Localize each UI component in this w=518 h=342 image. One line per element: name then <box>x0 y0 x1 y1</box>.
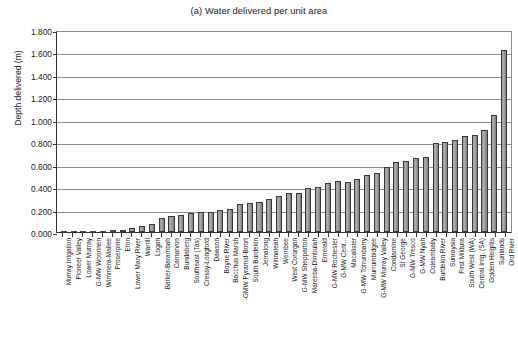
x-label-slot: Pioneer Valley <box>68 238 78 342</box>
x-label-slot: Lower Murray <box>78 238 88 342</box>
bar <box>364 175 370 232</box>
bar-slot <box>98 32 108 232</box>
x-tick-slot <box>363 233 373 237</box>
x-tick-slot <box>274 233 284 237</box>
bar-slot <box>127 32 137 232</box>
x-tick-slot <box>392 233 402 237</box>
x-label-slot: Jemalong <box>255 238 265 342</box>
x-label-slot: G-MW Rochester <box>323 238 333 342</box>
bar <box>354 179 360 232</box>
x-label-slot: Warrill <box>137 238 147 342</box>
bar-slot <box>313 32 323 232</box>
bar-slot <box>323 32 333 232</box>
bar-slot <box>59 32 69 232</box>
bar <box>198 212 204 232</box>
x-tick-slot <box>461 233 471 237</box>
bar-slot <box>108 32 118 232</box>
x-tick-slot <box>235 233 245 237</box>
bar <box>61 231 67 232</box>
x-tick-slot <box>500 233 510 237</box>
x-label-slot: G-MW Nyah <box>412 238 422 342</box>
x-label-slot: Ord River <box>500 238 510 342</box>
bar-slot <box>343 32 353 232</box>
x-label-slot: Golden Heights <box>481 238 491 342</box>
y-tick-label: 1.600 <box>31 49 52 59</box>
x-label-slot: Logan <box>146 238 156 342</box>
x-label-slot: G-MW Cent... <box>333 238 343 342</box>
y-tick-label: 1.200 <box>31 94 52 104</box>
bar-slot <box>79 32 89 232</box>
bar <box>384 167 390 232</box>
bar <box>129 228 135 232</box>
x-tick-slot <box>422 233 432 237</box>
x-tick-slot <box>451 233 461 237</box>
x-tick-slot <box>333 233 343 237</box>
bar-slot <box>382 32 392 232</box>
x-label-slot: Cressy-Longford <box>196 238 206 342</box>
x-tick-slot <box>264 233 274 237</box>
x-tick-slot <box>294 233 304 237</box>
x-tick-mark <box>446 233 447 237</box>
x-tick-mark <box>220 233 221 237</box>
bar <box>256 202 262 232</box>
x-tick-mark <box>249 233 250 237</box>
x-tick-slot <box>323 233 333 237</box>
bar <box>501 50 507 232</box>
chart-title: (a) Water delivered per unit area <box>0 6 518 16</box>
y-tick-label: 0.400 <box>31 184 52 194</box>
bar-slot <box>137 32 147 232</box>
bar <box>266 199 272 232</box>
bar-slot <box>470 32 480 232</box>
x-tick-label: Ord River <box>509 238 516 266</box>
x-tick-mark <box>190 233 191 237</box>
bar <box>100 231 106 232</box>
bar <box>110 230 116 232</box>
x-label-slot: Condamine <box>382 238 392 342</box>
x-tick-slot <box>137 233 147 237</box>
x-label-slot: Dawson <box>205 238 215 342</box>
x-tick-mark <box>269 233 270 237</box>
x-label-slot: Winnaleah <box>264 238 274 342</box>
x-tick-mark <box>397 233 398 237</box>
x-label-slot: South Burdekin <box>245 238 255 342</box>
x-tick-slot <box>68 233 78 237</box>
bar <box>296 193 302 233</box>
x-tick-slot <box>481 233 491 237</box>
bar <box>120 230 126 232</box>
bar-slot <box>460 32 470 232</box>
x-tick-mark <box>62 233 63 237</box>
x-tick-mark <box>141 233 142 237</box>
bar <box>423 157 429 232</box>
x-tick-slot <box>58 233 68 237</box>
x-tick-mark <box>210 233 211 237</box>
x-label-slot: Macalister <box>343 238 353 342</box>
bar <box>433 143 439 232</box>
y-tick-label: 1.800 <box>31 27 52 37</box>
x-label-slot: Bacchus Marsh <box>225 238 235 342</box>
x-tick-mark <box>112 233 113 237</box>
bar <box>90 231 96 232</box>
x-tick-mark <box>131 233 132 237</box>
x-tick-mark <box>367 233 368 237</box>
bar-slot <box>372 32 382 232</box>
bar <box>442 142 448 232</box>
bar-slot <box>225 32 235 232</box>
x-tick-mark <box>436 233 437 237</box>
bar <box>217 210 223 232</box>
x-tick-mark <box>298 233 299 237</box>
x-axis-ticks <box>56 233 512 237</box>
bar-slot <box>264 32 274 232</box>
bar <box>335 181 341 232</box>
bar <box>80 231 86 232</box>
x-tick-slot <box>353 233 363 237</box>
bar <box>452 140 458 232</box>
y-tick-label: 0.200 <box>31 207 52 217</box>
bar-slot <box>392 32 402 232</box>
y-axis-title: Depth delivered (m) <box>13 13 23 163</box>
x-tick-slot <box>402 233 412 237</box>
x-tick-mark <box>121 233 122 237</box>
bar <box>208 212 214 232</box>
x-tick-slot <box>196 233 206 237</box>
x-tick-mark <box>279 233 280 237</box>
x-tick-mark <box>229 233 230 237</box>
